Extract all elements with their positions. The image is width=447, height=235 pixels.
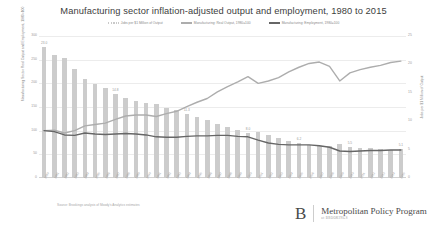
x-tick-label-1980: 1980	[44, 172, 50, 180]
legend-item-employment[interactable]: Manufacturing: Employment, 1980=100	[269, 21, 340, 25]
legend-label-jobs-per-million: Jobs per $1 Million of Output	[121, 21, 163, 25]
y-tick-right: 5	[408, 148, 410, 151]
x-tick-label-1990: 1990	[146, 172, 152, 180]
x-tick-label-1985: 1985	[95, 172, 101, 180]
y-tick-right: 0	[408, 176, 410, 179]
x-tick-label-1995: 1995	[197, 172, 203, 180]
y-tick-left: 250	[31, 58, 37, 61]
y-tick-right: 25	[408, 34, 412, 37]
brand-text-block: Metropolitan Policy Program at BROOKINGS	[321, 207, 427, 220]
legend-item-jobs-per-million[interactable]: Jobs per $1 Million of Output	[108, 21, 163, 25]
y-tick-left: 300	[31, 34, 37, 37]
chart-legend: Jobs per $1 Million of Output Manufactur…	[0, 21, 447, 25]
brand-institution: at BROOKINGS	[321, 216, 427, 220]
line-manufacturing-employment-1980-100	[44, 131, 401, 152]
x-tick-label-2011: 2011	[360, 172, 366, 179]
x-axis-ticks: 1980198119821983198419851986198719881989…	[39, 178, 406, 200]
brand-divider	[313, 205, 314, 222]
legend-swatch-line-icon	[181, 22, 192, 23]
legend-swatch-line-dark-icon	[269, 22, 280, 23]
chart-figure: Manufacturing sector inflation-adjusted …	[0, 0, 447, 235]
line-series-layer	[39, 36, 406, 178]
y-tick-right: 15	[408, 91, 412, 94]
plot-area: 050100150200250300051015202523.014.811.3…	[39, 36, 406, 178]
y-axis-label-left: Manufacturing Sector Real Output and Emp…	[21, 0, 25, 124]
line-manufacturing-real-output-1980-100	[44, 61, 401, 133]
legend-label-employment: Manufacturing: Employment, 1980=100	[282, 21, 340, 25]
y-tick-left: 150	[31, 105, 37, 108]
y-tick-right: 20	[408, 62, 412, 65]
legend-swatch-bar-icon	[108, 22, 119, 24]
brand-program-name: Metropolitan Policy Program	[321, 207, 427, 216]
y-tick-right: 10	[408, 119, 412, 122]
chart-title: Manufacturing sector inflation-adjusted …	[0, 6, 447, 16]
legend-item-real-output[interactable]: Manufacturing: Real Output, 1980=100	[181, 21, 251, 25]
brookings-monogram-icon: B	[295, 205, 306, 222]
y-tick-left: 200	[31, 81, 37, 84]
x-tick-label-2006: 2006	[309, 172, 315, 180]
brookings-branding: B Metropolitan Policy Program at BROOKIN…	[295, 205, 427, 222]
y-tick-left: 50	[33, 152, 37, 155]
y-tick-left: 0	[35, 176, 37, 179]
y-tick-left: 100	[31, 129, 37, 132]
source-note: Source: Brookings analysis of Moody's An…	[57, 203, 140, 207]
legend-label-real-output: Manufacturing: Real Output, 1980=100	[194, 21, 251, 25]
y-axis-label-right: Jobs per $1 Million of Output	[420, 32, 424, 162]
